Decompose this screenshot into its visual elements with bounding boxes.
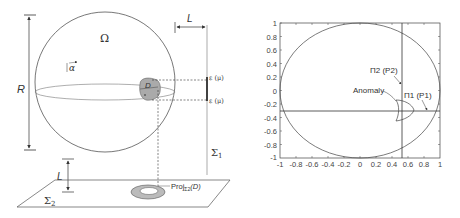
- r-label: R: [17, 83, 25, 95]
- svg-text:0.6: 0.6: [267, 46, 277, 55]
- svg-text:-0.8: -0.8: [290, 160, 303, 169]
- chart: 1 0.8 0.6 0.4 0.2 0 -0.2 -0.4 -0.6 -0.8 …: [264, 19, 442, 169]
- anomaly-crescent: [396, 100, 414, 121]
- svg-text:-0.8: -0.8: [264, 141, 277, 150]
- alpha-label: α: [69, 63, 75, 73]
- svg-text:-0.6: -0.6: [264, 127, 277, 136]
- svg-text:-0.6: -0.6: [306, 160, 319, 169]
- figure: R Ω α D ε (μ) ε (μ) Σ1 L: [0, 0, 460, 218]
- svg-text:0.8: 0.8: [267, 33, 277, 42]
- pi2-label: Π2 (P2): [370, 66, 398, 75]
- anomaly-label: Anomaly: [353, 86, 384, 95]
- sigma2-label: Σ2: [44, 195, 56, 208]
- svg-text:0.6: 0.6: [403, 160, 413, 169]
- projection-region: [131, 185, 170, 199]
- l-top-label: L: [187, 13, 193, 24]
- epsilon-top-label: ε (μ): [209, 74, 224, 82]
- y-axis: [280, 23, 440, 145]
- pi1-label: Π1 (P1): [404, 91, 432, 100]
- sigma1-label: Σ1: [211, 147, 223, 160]
- svg-text:-0.2: -0.2: [338, 160, 351, 169]
- d-label: D: [145, 81, 151, 90]
- svg-text:-0.4: -0.4: [322, 160, 335, 169]
- region-d: D: [140, 78, 161, 100]
- svg-text:1: 1: [273, 19, 277, 28]
- svg-text:0: 0: [358, 160, 362, 169]
- anomaly-pointer: [383, 91, 396, 101]
- svg-text:-1: -1: [277, 160, 284, 169]
- projection-label: ProjΣ2(D): [171, 182, 201, 192]
- y-tick-labels: 1 0.8 0.6 0.4 0.2 0 -0.2 -0.4 -0.6 -0.8 …: [264, 19, 277, 162]
- svg-text:1: 1: [438, 160, 442, 169]
- svg-text:0.8: 0.8: [419, 160, 429, 169]
- svg-text:-0.4: -0.4: [264, 114, 277, 123]
- svg-text:0: 0: [273, 87, 277, 96]
- svg-text:0.4: 0.4: [387, 160, 397, 169]
- pi1-pointer: [422, 100, 427, 110]
- svg-text:0.2: 0.2: [371, 160, 381, 169]
- svg-text:0.4: 0.4: [267, 60, 277, 69]
- pi2-pointer: [394, 76, 401, 84]
- svg-text:-0.2: -0.2: [264, 100, 277, 109]
- sphere-diagram: R Ω α D ε (μ) ε (μ) Σ1 L: [17, 12, 230, 208]
- x-tick-labels: -1 -0.8 -0.6 -0.4 -0.2 0 0.2 0.4 0.6 0.8…: [277, 160, 442, 169]
- omega-label: Ω: [100, 32, 109, 45]
- epsilon-bottom-label: ε (μ): [209, 97, 224, 105]
- svg-text:0.2: 0.2: [267, 73, 277, 82]
